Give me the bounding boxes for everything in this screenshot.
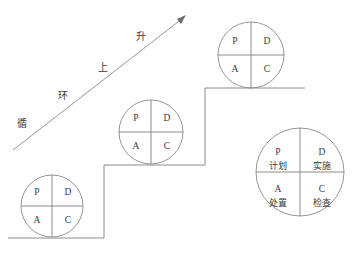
- quadrant-label-plan: 计划: [269, 160, 287, 171]
- quadrant-letter-c: C: [264, 64, 270, 74]
- quadrant-label-check: 检查: [313, 197, 331, 208]
- quadrant-letter-c: C: [65, 215, 71, 225]
- quadrant-letter-a: A: [34, 215, 41, 225]
- quadrant-letter-p: P: [34, 187, 39, 197]
- pdca-circle-middle: P D A C: [119, 100, 183, 164]
- quadrant-letter-d: D: [264, 36, 271, 46]
- arrow-head-icon: [177, 15, 186, 24]
- pdca-circle-bottom: P D A C: [21, 175, 83, 237]
- quadrant-letter-a: A: [275, 184, 282, 194]
- ascending-arrow-line: [13, 18, 183, 150]
- arrow-label-0: 循: [17, 117, 27, 129]
- quadrant-letter-d: D: [164, 113, 171, 123]
- quadrant-letter-c: C: [164, 141, 170, 151]
- quadrant-letter-a: A: [232, 64, 239, 74]
- pdca-circle-legend: P 计划 D 实施 A 处置 C 检查: [256, 128, 344, 216]
- quadrant-letter-c: C: [319, 184, 325, 194]
- staircase-group: [8, 88, 305, 238]
- diagram-page: 循 环 上 升 P D A C P D A C: [0, 0, 357, 253]
- arrow-label-1: 环: [58, 90, 68, 101]
- quadrant-letter-d: D: [319, 147, 326, 157]
- quadrant-letter-p: P: [232, 36, 237, 46]
- quadrant-letter-p: P: [133, 113, 138, 123]
- arrow-label-2: 上: [98, 62, 108, 73]
- arrow-label-3: 升: [136, 31, 146, 42]
- quadrant-letter-d: D: [65, 187, 72, 197]
- quadrant-label-do: 实施: [313, 160, 331, 171]
- ascending-arrow-group: 循 环 上 升: [13, 15, 186, 150]
- pdca-staircase-diagram: 循 环 上 升 P D A C P D A C: [0, 0, 357, 253]
- quadrant-letter-a: A: [133, 141, 140, 151]
- quadrant-letter-p: P: [275, 147, 280, 157]
- pdca-circle-top: P D A C: [218, 22, 284, 88]
- quadrant-label-act: 处置: [269, 197, 287, 208]
